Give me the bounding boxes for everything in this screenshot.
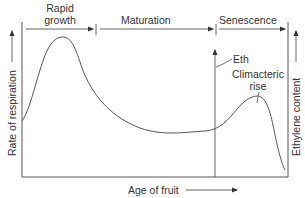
x-axis-label: Age of fruit (128, 184, 179, 196)
climacteric-line2: rise (230, 80, 286, 92)
y-axis-right-label: Ethylene content (290, 78, 302, 156)
climacteric-line1: Climacteric (230, 68, 286, 80)
phase-label-senescence: Senescence (219, 14, 277, 26)
phase-label-maturation: Maturation (121, 14, 171, 26)
phase-label-line2: growth (40, 14, 80, 26)
respiration-diagram (0, 0, 305, 198)
y-axis-left-label: Rate of respiration (6, 70, 18, 156)
eth-label: Eth (233, 53, 249, 65)
phase-label-rapid-growth: Rapid growth (40, 2, 80, 26)
climacteric-rise-label: Climacteric rise (230, 68, 286, 92)
phase-label-line1: Rapid (40, 2, 80, 14)
eth-leader-line (216, 59, 232, 67)
climacteric-leader-line (257, 92, 259, 103)
